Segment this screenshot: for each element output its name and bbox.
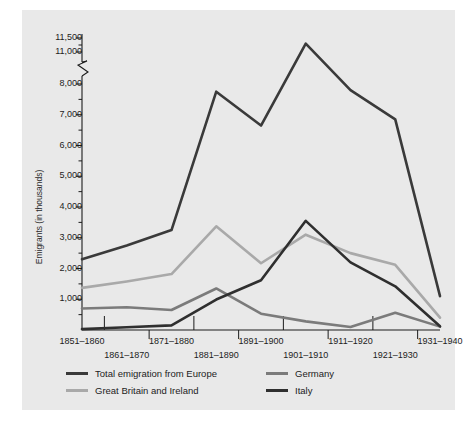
legend-item[interactable]: Germany — [266, 368, 334, 379]
legend-item[interactable]: Italy — [266, 385, 312, 396]
legend-swatch-icon — [266, 389, 288, 392]
legend-swatch-icon — [66, 372, 88, 375]
legend-item-label: Italy — [295, 385, 312, 396]
legend-item-label: Total emigration from Europe — [95, 368, 217, 379]
legend-swatch-icon — [66, 389, 88, 392]
series-line — [82, 44, 440, 297]
legend-swatch-icon — [266, 372, 288, 375]
series-line — [82, 226, 440, 317]
chart-plot-area — [0, 0, 471, 426]
legend-item[interactable]: Total emigration from Europe — [66, 368, 217, 379]
y-axis-break-icon — [78, 61, 88, 76]
legend-item-label: Germany — [295, 368, 334, 379]
legend-item-label: Great Britain and Ireland — [95, 385, 199, 396]
legend-item[interactable]: Great Britain and Ireland — [66, 385, 199, 396]
series-line — [82, 288, 440, 326]
